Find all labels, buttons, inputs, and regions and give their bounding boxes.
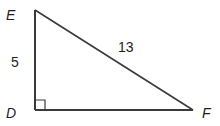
vertex-label-e: E [6, 8, 15, 22]
vertex-label-d: D [6, 106, 16, 120]
right-angle-marker [35, 100, 45, 110]
side-label-ed: 5 [11, 55, 19, 69]
side-ef [35, 10, 193, 110]
triangle-figure [0, 0, 220, 126]
side-label-ef: 13 [118, 40, 134, 54]
vertex-label-f: F [202, 106, 211, 120]
